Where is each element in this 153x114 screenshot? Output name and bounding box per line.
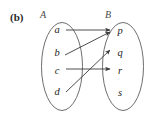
element-label-r: r [118, 65, 123, 76]
arrow-d-to-q [66, 50, 110, 92]
element-label-s: s [118, 87, 122, 98]
element-label-b: b [54, 47, 59, 58]
element-label-a: a [54, 24, 59, 35]
oval-set-b [103, 23, 144, 111]
part-label: (b) [10, 11, 24, 24]
element-label-d: d [54, 86, 60, 97]
mapping-diagram-figure: (b) A B a b c d p q r s [0, 0, 153, 114]
element-label-q: q [117, 47, 122, 58]
element-label-p: p [116, 25, 122, 36]
element-label-c: c [55, 65, 60, 76]
diagram-canvas: (b) A B a b c d p q r s [0, 0, 153, 114]
oval-set-a [42, 23, 83, 111]
set-label-domain: A [39, 9, 47, 20]
set-label-codomain: B [105, 9, 111, 20]
